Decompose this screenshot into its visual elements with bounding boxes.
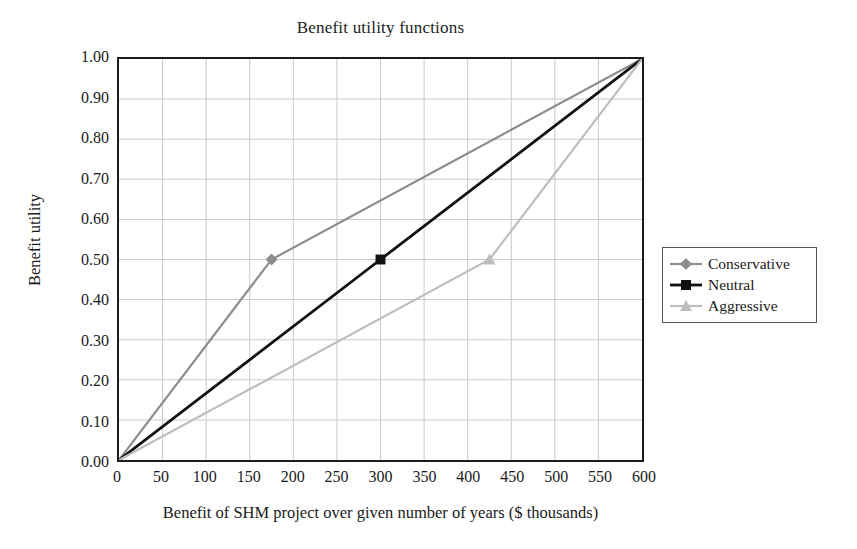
legend-item[interactable]: Aggressive [669,295,810,316]
data-series-layer [119,59,642,460]
y-tick-label: 0.10 [49,413,109,431]
y-axis-tick-labels: 0.000.100.200.300.400.500.600.700.800.90… [47,57,109,462]
legend-label: Conservative [708,256,790,272]
legend-label: Aggressive [708,298,778,314]
y-tick-label: 0.40 [49,291,109,309]
legend-item[interactable]: Conservative [669,253,810,274]
y-tick-label: 0.70 [49,170,109,188]
chart-legend: ConservativeNeutralAggressive [662,247,817,323]
chart-title: Benefit utility functions [117,18,644,38]
legend-swatch-square-icon [669,278,703,292]
y-tick-label: 0.20 [49,372,109,390]
benefit-utility-chart-figure: Benefit utility functions Benefit utilit… [0,0,857,549]
y-axis-title: Benefit utility [25,140,45,340]
plot-area [117,57,644,462]
y-tick-label: 0.30 [49,332,109,350]
legend-label: Neutral [708,277,754,293]
y-tick-label: 0.50 [49,251,109,269]
legend-item[interactable]: Neutral [669,274,810,295]
y-tick-label: 0.80 [49,129,109,147]
y-tick-label: 1.00 [49,48,109,66]
x-axis-tick-labels: 050100150200250300350400450500550600 [117,468,644,492]
series-marker [376,255,386,265]
legend-swatch-triangle-icon [669,299,703,313]
y-tick-label: 0.60 [49,210,109,228]
x-axis-title: Benefit of SHM project over given number… [117,503,644,523]
y-tick-label: 0.90 [49,89,109,107]
legend-swatch-diamond-icon [669,257,703,271]
x-tick-label: 600 [614,468,674,486]
